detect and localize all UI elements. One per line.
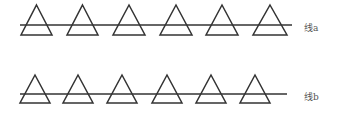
triangle-icon [253,5,287,35]
triangle-icon [206,5,238,35]
line-b-label: 线b [304,90,319,103]
row-b [20,75,287,103]
triangle-icon [21,5,52,35]
triangle-icon [240,75,270,103]
triangle-icon [63,75,93,103]
triangle-icon [67,5,98,35]
triangle-icon [196,75,226,103]
triangle-icon [113,5,145,35]
row-a [20,5,292,35]
triangle-icon [152,75,182,103]
line-a-label: 线a [304,21,318,34]
triangle-icon [160,5,192,35]
diagram-canvas [0,0,337,120]
triangle-icon [20,75,50,103]
triangle-icon [107,75,137,103]
